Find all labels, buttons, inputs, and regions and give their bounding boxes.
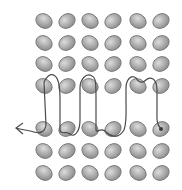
bead [102,11,124,32]
bead [33,33,55,54]
bead [127,141,149,162]
bead [33,119,55,140]
bead-weave-figure [0,0,182,190]
bead [56,163,78,184]
bead [33,11,55,32]
bead [79,33,101,54]
bead [150,33,172,54]
bead [102,76,124,97]
bead [79,163,101,184]
bead [127,33,149,54]
bead [79,54,101,75]
bead [102,141,124,162]
bead [79,11,101,32]
bead [56,33,78,54]
bead-diagram [0,0,182,190]
bead [127,163,149,184]
bead [127,119,149,140]
bead [127,76,149,97]
bead [33,54,55,75]
bead [127,11,149,32]
bead [127,54,149,75]
bead [150,141,172,162]
bead [56,11,78,32]
bead [150,54,172,75]
bead-grid [33,11,172,184]
bead [79,141,101,162]
bead [102,33,124,54]
bead [56,54,78,75]
bead [102,163,124,184]
bead [150,11,172,32]
bead [79,119,101,140]
bead [33,141,55,162]
bead [33,163,55,184]
bead [56,119,78,140]
thread-start-dot [159,127,163,131]
bead [102,54,124,75]
bead [150,163,172,184]
bead [56,141,78,162]
